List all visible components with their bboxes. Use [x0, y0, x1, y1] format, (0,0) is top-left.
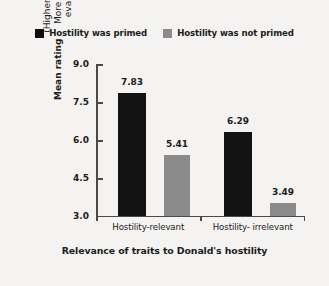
bar-primed-irrelevant — [224, 132, 252, 216]
bar-not-primed-relevant — [164, 155, 190, 216]
bar-primed-relevant — [118, 93, 146, 216]
y-tick-label-3: 3.0 — [65, 212, 89, 221]
y-tick-4-5 — [98, 178, 103, 180]
bar-value-not-primed-irrelevant: 3.49 — [261, 188, 305, 197]
legend-label-not-primed: Hostility was not primed — [177, 28, 294, 38]
y-tick-9 — [98, 64, 103, 66]
bar-chart-figure: Hostility was primed Hostility was not p… — [0, 0, 329, 286]
x-tick-labels: Hostility-relevant Hostility- irrelevant — [96, 222, 305, 232]
bar-value-primed-relevant: 7.83 — [110, 78, 154, 87]
y-axis-title-sub: (Higher number = More negative evaluatio… — [42, 0, 73, 37]
y-axis-title-main: Mean rating — [53, 39, 63, 100]
legend-swatch-gray-icon — [163, 29, 172, 38]
y-tick-label-7-5: 7.5 — [65, 98, 89, 107]
y-tick-7-5 — [98, 102, 103, 104]
bar-not-primed-irrelevant — [270, 203, 296, 216]
legend-entry-not-primed: Hostility was not primed — [163, 28, 294, 38]
y-tick-label-4-5: 4.5 — [65, 174, 89, 183]
bar-value-primed-irrelevant: 6.29 — [216, 117, 260, 126]
x-axis-end-tick — [304, 217, 306, 221]
x-axis-mid-tick — [200, 217, 202, 221]
plot-area: 9.0 7.5 6.0 4.5 3.0 7.83 5.41 6.29 3.49 — [96, 64, 305, 217]
y-axis-title: Mean rating (Higher number = More negati… — [40, 0, 76, 100]
y-tick-label-6: 6.0 — [65, 136, 89, 145]
y-tick-label-9: 9.0 — [65, 60, 89, 69]
y-tick-6 — [98, 140, 103, 142]
x-axis-title: Relevance of traits to Donald's hostilit… — [0, 245, 329, 256]
bar-value-not-primed-relevant: 5.41 — [155, 140, 199, 149]
x-tick-label-irrelevant: Hostility- irrelevant — [201, 222, 306, 232]
x-axis-start-tick — [96, 217, 98, 221]
x-tick-label-relevant: Hostility-relevant — [96, 222, 201, 232]
